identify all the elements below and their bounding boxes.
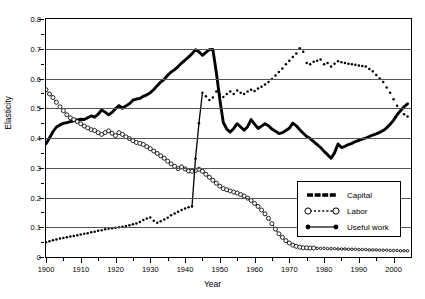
x-tick-major — [81, 258, 82, 263]
x-tick-label: 1900 — [38, 265, 55, 274]
x-tick-label: 2000 — [385, 265, 402, 274]
y-tick-major — [39, 198, 44, 199]
x-tick-minor — [237, 258, 238, 261]
x-tick-major — [359, 258, 360, 263]
legend-symbol-labor — [303, 205, 343, 217]
x-tick-label: 1950 — [211, 265, 228, 274]
y-tick-minor — [41, 212, 44, 213]
legend-label-capital: Capital — [343, 191, 372, 200]
y-tick-major — [39, 79, 44, 80]
y-tick-major — [39, 168, 44, 169]
x-tick-major — [289, 258, 290, 263]
x-tick-minor — [63, 258, 64, 261]
x-tick-minor — [307, 258, 308, 261]
x-tick-minor — [98, 258, 99, 261]
x-tick-label: 1910 — [72, 265, 89, 274]
y-tick-major — [39, 227, 44, 228]
y-tick-minor — [41, 93, 44, 94]
legend-item-capital: Capital — [298, 187, 400, 203]
x-tick-major — [324, 258, 325, 263]
x-tick-label: 1940 — [177, 265, 194, 274]
x-tick-major — [394, 258, 395, 263]
x-tick-major — [46, 258, 47, 263]
y-tick-major — [39, 108, 44, 109]
gridline — [46, 49, 411, 50]
x-tick-major — [255, 258, 256, 263]
gridline — [46, 79, 411, 80]
gridline — [46, 108, 411, 109]
legend-symbol-useful-work — [303, 221, 343, 233]
x-tick-major — [220, 258, 221, 263]
y-axis-ticks — [0, 18, 45, 258]
y-tick-major — [39, 138, 44, 139]
y-tick-major — [39, 49, 44, 50]
x-tick-minor — [202, 258, 203, 261]
x-tick-label: 1980 — [316, 265, 333, 274]
legend-item-labor: Labor — [298, 203, 400, 219]
gridline — [46, 138, 411, 139]
x-tick-minor — [168, 258, 169, 261]
x-tick-label: 1960 — [246, 265, 263, 274]
x-axis-ticks — [45, 258, 412, 264]
chart-legend: Capital Labor Useful work — [297, 181, 401, 237]
x-tick-major — [150, 258, 151, 263]
x-tick-minor — [272, 258, 273, 261]
x-tick-label: 1990 — [351, 265, 368, 274]
gridline — [46, 168, 411, 169]
x-tick-label: 1930 — [142, 265, 159, 274]
y-tick-minor — [41, 123, 44, 124]
y-tick-minor — [41, 64, 44, 65]
x-tick-minor — [376, 258, 377, 261]
series-capital — [46, 49, 408, 158]
legend-symbol-capital — [303, 189, 343, 201]
legend-label-labor: Labor — [343, 207, 367, 216]
y-tick-minor — [41, 242, 44, 243]
y-tick-minor — [41, 183, 44, 184]
x-tick-minor — [341, 258, 342, 261]
x-axis-title: Year — [0, 279, 425, 289]
x-tick-label: 1970 — [281, 265, 298, 274]
x-tick-minor — [133, 258, 134, 261]
x-tick-major — [116, 258, 117, 263]
y-tick-major — [39, 19, 44, 20]
y-tick-minor — [41, 153, 44, 154]
y-tick-minor — [41, 34, 44, 35]
y-tick-major — [39, 257, 44, 258]
x-tick-label: 1920 — [107, 265, 124, 274]
elasticity-chart-figure: Elasticity 00.10.20.30.40.50.60.70.8 190… — [0, 0, 425, 299]
legend-item-useful-work: Useful work — [298, 219, 400, 235]
legend-label-useful-work: Useful work — [343, 223, 389, 232]
x-tick-major — [185, 258, 186, 263]
x-axis-tick-labels: 1900191019201930194019501960197019801990… — [45, 265, 412, 277]
